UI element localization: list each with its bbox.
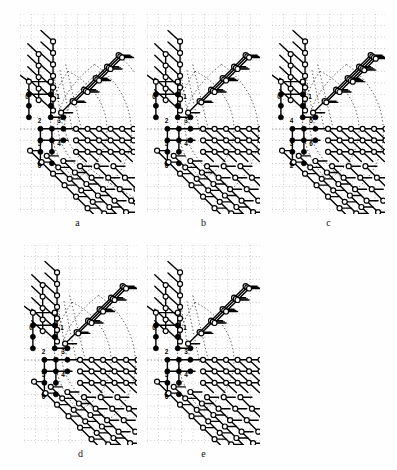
node-label-a-0: 0 xyxy=(25,93,29,100)
lattice-graphic-b: 0123546 xyxy=(147,14,260,214)
node-label-d-3: 3 xyxy=(61,348,65,355)
node-label-d-2: 2 xyxy=(42,348,46,355)
node-label-c-6: 2 xyxy=(290,162,294,169)
node-label-b-1: 1 xyxy=(183,93,187,100)
node-label-b-4: 5 xyxy=(165,140,169,147)
nodes-b xyxy=(153,39,260,214)
figure-container: 0123546a0123546b0145362c0123546d0123546e xyxy=(0,0,397,470)
node-label-c-1: 1 xyxy=(308,93,312,100)
node-label-e-6: 6 xyxy=(165,393,169,400)
dotted-grid-e xyxy=(147,245,260,445)
node-label-b-6: 6 xyxy=(165,162,169,169)
lattice-graphic-c: 0145362 xyxy=(272,14,385,214)
panel-caption-e: e xyxy=(147,448,260,459)
node-label-d-5: 4 xyxy=(61,371,65,378)
node-label-e-2: 2 xyxy=(165,348,169,355)
node-label-a-6: 6 xyxy=(38,162,42,169)
node-label-a-3: 3 xyxy=(57,117,61,124)
node-label-d-1: 1 xyxy=(60,324,64,331)
panel-caption-d: d xyxy=(24,448,137,459)
node-label-a-4: 5 xyxy=(38,140,42,147)
lattice-graphic-a: 0123546 xyxy=(20,14,135,214)
node-label-a-1: 1 xyxy=(56,93,60,100)
node-label-a-5: 4 xyxy=(57,140,61,147)
node-label-c-4: 3 xyxy=(290,140,294,147)
nodes-d xyxy=(30,270,137,445)
panel-e: 0123546e xyxy=(147,245,260,445)
node-label-d-0: 0 xyxy=(29,324,33,331)
node-label-b-3: 3 xyxy=(184,117,188,124)
node-label-d-6: 6 xyxy=(42,393,46,400)
node-label-b-5: 4 xyxy=(184,140,188,147)
node-label-a-2: 2 xyxy=(38,117,42,124)
node-label-c-0: 0 xyxy=(277,93,281,100)
nodes-e xyxy=(153,270,260,445)
lattice-graphic-d: 0123546 xyxy=(24,245,137,445)
dotted-grid-d xyxy=(24,245,137,445)
node-label-e-5: 4 xyxy=(184,371,188,378)
panel-c: 0145362c xyxy=(272,14,385,214)
dotted-grid-c xyxy=(272,14,385,214)
node-label-b-0: 0 xyxy=(152,93,156,100)
panel-b: 0123546b xyxy=(147,14,260,214)
node-label-e-0: 0 xyxy=(152,324,156,331)
node-label-c-5: 6 xyxy=(309,140,313,147)
node-label-e-1: 1 xyxy=(183,324,187,331)
panel-caption-a: a xyxy=(20,217,135,228)
panel-a: 0123546a xyxy=(20,14,135,214)
panel-caption-c: c xyxy=(272,217,385,228)
dotted-grid-b xyxy=(147,14,260,214)
node-label-e-3: 3 xyxy=(184,348,188,355)
node-label-c-2: 4 xyxy=(290,117,294,124)
node-label-e-4: 5 xyxy=(165,371,169,378)
panel-d: 0123546d xyxy=(24,245,137,445)
lattice-graphic-e: 0123546 xyxy=(147,245,260,445)
node-label-c-3: 5 xyxy=(309,117,313,124)
node-label-d-4: 5 xyxy=(42,371,46,378)
node-label-b-2: 2 xyxy=(165,117,169,124)
panel-caption-b: b xyxy=(147,217,260,228)
